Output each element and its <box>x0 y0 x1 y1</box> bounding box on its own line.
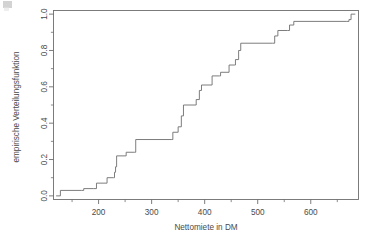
y-axis-tick-label: 0.6 <box>41 81 50 93</box>
ecdf-plot-svg: 2003004005006000.00.20.40.60.81.0Nettomi… <box>0 0 371 241</box>
ecdf-chart-figure: 2003004005006000.00.20.40.60.81.0Nettomi… <box>0 0 371 241</box>
x-axis-tick-label: 400 <box>198 208 212 217</box>
plot-frame <box>54 11 359 200</box>
y-axis-tick-label: 0.8 <box>41 44 50 56</box>
ecdf-step-line <box>56 14 355 196</box>
y-axis-title: empirische Verteilungsfunktion <box>12 51 21 162</box>
x-axis-tick-label: 200 <box>92 208 106 217</box>
x-axis-title: Nettomiete in DM <box>174 223 237 232</box>
x-axis-tick-label: 600 <box>304 208 318 217</box>
scan-artifact-mark <box>3 1 12 8</box>
y-axis-tick-label: 0.4 <box>41 117 50 129</box>
x-axis-tick-label: 300 <box>145 208 159 217</box>
y-axis-tick-label: 0.0 <box>41 190 50 202</box>
y-axis-tick-label: 1.0 <box>41 8 50 20</box>
y-axis-tick-label: 0.2 <box>41 153 50 165</box>
x-axis-tick-label: 500 <box>251 208 265 217</box>
